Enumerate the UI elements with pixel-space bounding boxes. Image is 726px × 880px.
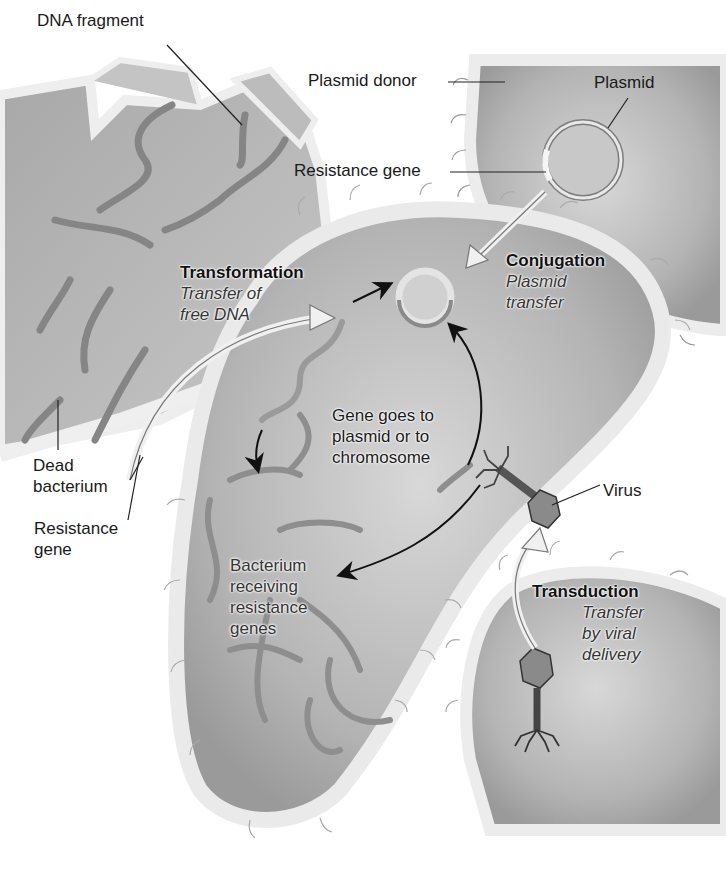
label-dead-bacterium: Dead bacterium: [33, 455, 108, 497]
label-gene-goes-to: Gene goes to plasmid or to chromosome: [332, 405, 434, 468]
gene-transfer-diagram: DNA fragment Plasmid donor Plasmid Resis…: [0, 0, 726, 880]
label-bacterium-receiving: Bacterium receiving resistance genes: [230, 555, 307, 639]
transduction-title: Transduction: [532, 581, 644, 602]
conjugation-label: Conjugation Plasmid transfer: [506, 250, 605, 313]
label-resistance-gene-left: Resistance gene: [34, 518, 118, 560]
label-dna-fragment: DNA fragment: [37, 10, 144, 31]
transformation-label: Transformation Transfer of free DNA: [180, 262, 304, 325]
label-plasmid: Plasmid: [594, 72, 654, 93]
transduction-label: Transduction Transfer by viral delivery: [532, 581, 644, 665]
label-resistance-gene-top: Resistance gene: [294, 160, 421, 181]
label-virus: Virus: [603, 480, 641, 501]
transformation-title: Transformation: [180, 262, 304, 283]
label-plasmid-donor: Plasmid donor: [308, 70, 417, 91]
conjugation-title: Conjugation: [506, 250, 605, 271]
